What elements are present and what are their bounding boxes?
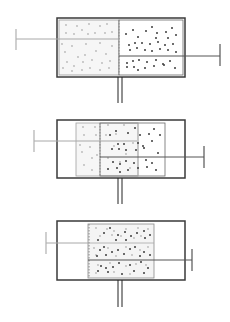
- stage-1-valve-pipe: [118, 77, 122, 103]
- stage-3-valve-pipe: [118, 280, 122, 307]
- gas-mixing-diagram: [0, 0, 230, 322]
- stage-3-mixed-chamber: [88, 224, 154, 278]
- stage-1-right-chamber: [119, 20, 183, 75]
- stage-1-left-chamber: [59, 20, 119, 75]
- stage-2-left-chamber: [76, 123, 138, 176]
- stage-1-panel: [16, 18, 220, 103]
- stage-3-panel: [46, 221, 192, 307]
- stage-2-valve-pipe: [118, 178, 122, 204]
- stage-2-panel: [34, 120, 204, 204]
